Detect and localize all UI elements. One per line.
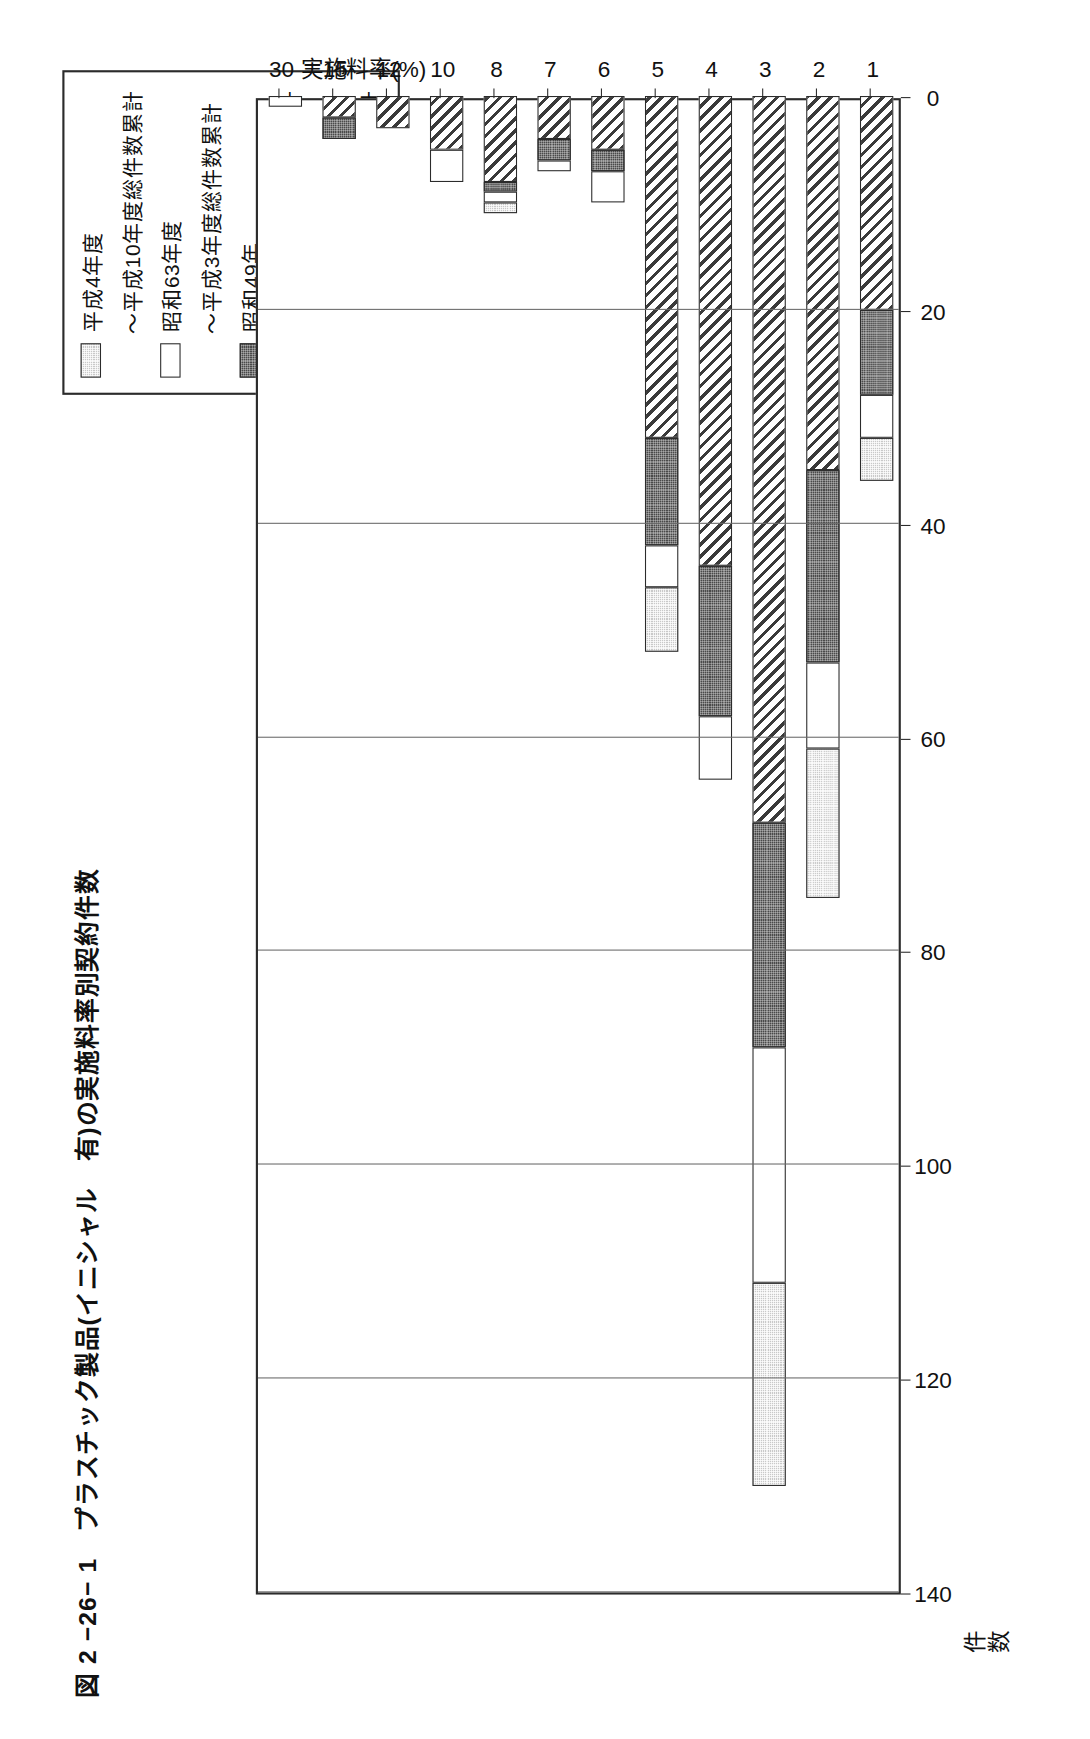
legend-swatch-spacer-icon bbox=[121, 345, 139, 377]
value-tickmark bbox=[901, 1165, 911, 1166]
gridline bbox=[258, 950, 899, 951]
value-tick-120: 120 bbox=[909, 1367, 956, 1393]
category-tick-6: 6 bbox=[590, 56, 618, 82]
category-tickmark bbox=[440, 88, 441, 98]
bar-segment[interactable] bbox=[698, 715, 731, 779]
category-tickmark bbox=[547, 88, 548, 98]
category-axis-title: 実施料率(%) bbox=[301, 50, 426, 82]
bar-segment[interactable] bbox=[322, 96, 355, 117]
bar-segment[interactable] bbox=[859, 309, 892, 394]
legend-item-showa63-sub: 〜平成3年度総件数累計 bbox=[195, 89, 226, 377]
bar-segment[interactable] bbox=[752, 822, 785, 1046]
category-tickmark bbox=[762, 88, 763, 98]
bar-group bbox=[258, 100, 899, 1592]
value-tickmark bbox=[901, 524, 911, 525]
bar-stack-5[interactable] bbox=[644, 95, 677, 1591]
bar-segment[interactable] bbox=[483, 202, 516, 213]
bar-segment[interactable] bbox=[806, 748, 839, 898]
bar-segment[interactable] bbox=[752, 96, 785, 823]
bar-segment[interactable] bbox=[806, 95, 839, 469]
bar-segment[interactable] bbox=[483, 192, 516, 203]
value-tick-0: 0 bbox=[909, 85, 956, 111]
category-tickmark bbox=[332, 88, 333, 98]
legend-label-heisei4: 平成4年度 bbox=[75, 231, 106, 331]
bar-stack-4[interactable] bbox=[698, 95, 731, 1591]
gridline bbox=[258, 1377, 899, 1378]
bar-segment[interactable] bbox=[591, 96, 624, 149]
value-tickmark bbox=[901, 952, 911, 953]
bar-segment[interactable] bbox=[591, 149, 624, 170]
category-tickmark bbox=[601, 88, 602, 98]
bar-segment[interactable] bbox=[752, 1282, 785, 1485]
category-tick-7: 7 bbox=[536, 56, 564, 82]
bar-segment[interactable] bbox=[644, 438, 677, 545]
category-tick-1: 1 bbox=[859, 56, 887, 82]
value-tick-60: 60 bbox=[909, 726, 956, 752]
bar-stack-2[interactable] bbox=[806, 95, 839, 1591]
value-tick-80: 80 bbox=[909, 940, 956, 966]
legend-item-heisei4[interactable]: 平成4年度 bbox=[75, 89, 106, 377]
bar-segment[interactable] bbox=[644, 544, 677, 587]
bar-segment[interactable] bbox=[537, 138, 570, 159]
legend-swatch-light-gray-dotted-icon bbox=[81, 342, 101, 376]
bar-segment[interactable] bbox=[859, 395, 892, 438]
bar-segment[interactable] bbox=[322, 117, 355, 138]
bar-segment[interactable] bbox=[429, 149, 462, 181]
bar-segment[interactable] bbox=[806, 662, 839, 747]
bar-segment[interactable] bbox=[859, 438, 892, 481]
bar-segment[interactable] bbox=[644, 96, 677, 438]
figure-page: 図 2 −26− 1 プラスチック製品(イニシャル 有)の実施料率別契約件数 平… bbox=[0, 0, 1090, 1739]
value-tickmark bbox=[901, 738, 911, 739]
gridline bbox=[258, 1163, 899, 1164]
bar-stack-15[interactable] bbox=[322, 95, 355, 1591]
bar-segment[interactable] bbox=[591, 170, 624, 202]
bar-stack-10[interactable] bbox=[429, 95, 462, 1591]
bar-stack-1[interactable] bbox=[859, 95, 892, 1591]
category-tick-5: 5 bbox=[644, 56, 672, 82]
category-tick-8: 8 bbox=[483, 56, 511, 82]
gridline bbox=[258, 308, 899, 309]
category-tickmark bbox=[870, 88, 871, 98]
legend-item-showa63[interactable]: 昭和63年度 bbox=[155, 89, 186, 377]
bar-segment[interactable] bbox=[376, 96, 409, 128]
gridline bbox=[258, 522, 899, 523]
bar-segment[interactable] bbox=[698, 566, 731, 716]
legend-swatch-white-icon bbox=[160, 342, 180, 376]
bar-segment[interactable] bbox=[429, 96, 462, 149]
bar-segment[interactable] bbox=[268, 96, 301, 107]
value-tick-40: 40 bbox=[909, 512, 956, 538]
value-tick-100: 100 bbox=[909, 1154, 956, 1180]
category-tick-30: 30 bbox=[268, 56, 296, 82]
legend-sublabel-showa63: 〜平成3年度総件数累計 bbox=[195, 101, 226, 334]
bar-segment[interactable] bbox=[483, 96, 516, 181]
category-tick-2: 2 bbox=[805, 56, 833, 82]
value-tickmark bbox=[901, 310, 911, 311]
bar-segment[interactable] bbox=[698, 96, 731, 566]
bar-segment[interactable] bbox=[483, 181, 516, 192]
category-tick-10: 10 bbox=[429, 56, 457, 82]
legend-swatch-spacer-icon bbox=[201, 345, 219, 377]
bar-segment[interactable] bbox=[806, 470, 839, 662]
category-tick-3: 3 bbox=[751, 56, 779, 82]
category-tickmark bbox=[708, 88, 709, 98]
bar-stack-12[interactable] bbox=[376, 95, 409, 1591]
bar-segment[interactable] bbox=[859, 96, 892, 310]
category-tickmark bbox=[278, 88, 279, 98]
value-tick-20: 20 bbox=[909, 299, 956, 325]
category-tickmark bbox=[816, 88, 817, 98]
category-tick-4: 4 bbox=[698, 56, 726, 82]
gridline bbox=[258, 1591, 899, 1592]
value-axis-title: 件数 bbox=[963, 1626, 1012, 1658]
bar-stack-6[interactable] bbox=[591, 95, 624, 1591]
value-tickmark bbox=[901, 97, 911, 98]
bar-stack-30[interactable] bbox=[268, 95, 301, 1591]
bar-stack-7[interactable] bbox=[537, 95, 570, 1591]
bar-segment[interactable] bbox=[537, 96, 570, 139]
legend-item-heisei4-sub: 〜平成10年度総件数累計 bbox=[115, 89, 146, 377]
bar-segment[interactable] bbox=[537, 160, 570, 171]
bar-segment[interactable] bbox=[644, 587, 677, 651]
bar-stack-8[interactable] bbox=[483, 95, 516, 1591]
bar-stack-3[interactable] bbox=[752, 95, 785, 1591]
value-tick-140: 140 bbox=[909, 1581, 956, 1607]
legend-label-showa63: 昭和63年度 bbox=[155, 219, 186, 332]
